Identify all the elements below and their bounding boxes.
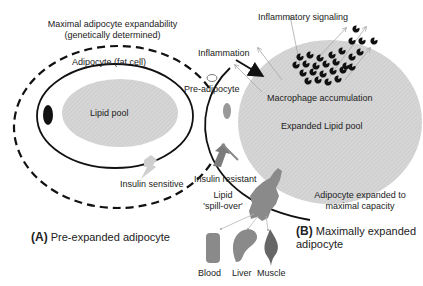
macrophage-icon — [370, 37, 377, 44]
macrophage-accumulation-label: Macrophage accumulation — [267, 93, 373, 103]
maximal-expandability-label: Maximal adipocyte expandability (genetic… — [35, 19, 190, 40]
adipocyte-expandability-diagram: Maximal adipocyte expandability (genetic… — [0, 0, 423, 286]
nucleus-icon — [43, 105, 53, 125]
nucleus-icon — [223, 103, 231, 119]
muscle-icon — [264, 229, 277, 266]
expanded-lipid-pool-label: Expanded Lipid pool — [281, 121, 363, 131]
lipid-pool-label: Lipid pool — [90, 108, 129, 118]
panel-b-caption: (B) Maximally expanded adipocyte — [296, 225, 416, 251]
liver-icon — [233, 229, 257, 262]
lipid-spill-over-label: Lipid 'spill-over' — [196, 190, 250, 211]
macrophage-icon — [348, 37, 355, 44]
muscle-label: Muscle — [257, 268, 286, 278]
maximal-capacity-label: Adipocyte expanded to maximal capacity — [301, 190, 419, 211]
blood-vessel-icon — [206, 233, 220, 263]
adipocyte-label: Adipocyte (fat cell) — [72, 57, 146, 67]
pre-adipocyte-icon — [207, 75, 217, 82]
pre-adipocyte-label: Pre-adipocyte — [184, 84, 240, 94]
insulin-sensitive-label: Insulin sensitive — [120, 179, 184, 189]
blood-label: Blood — [198, 268, 221, 278]
inflammation-label: Inflammation — [198, 48, 250, 58]
insulin-resistant-label: Insulin resistant — [194, 174, 257, 184]
inflammatory-signaling-label: Inflammatory signaling — [258, 12, 348, 22]
macrophage-icon — [358, 37, 365, 44]
macrophage-icon — [352, 25, 359, 32]
liver-label: Liver — [232, 268, 252, 278]
panel-a-caption: (A) Pre-expanded adipocyte — [31, 231, 170, 244]
